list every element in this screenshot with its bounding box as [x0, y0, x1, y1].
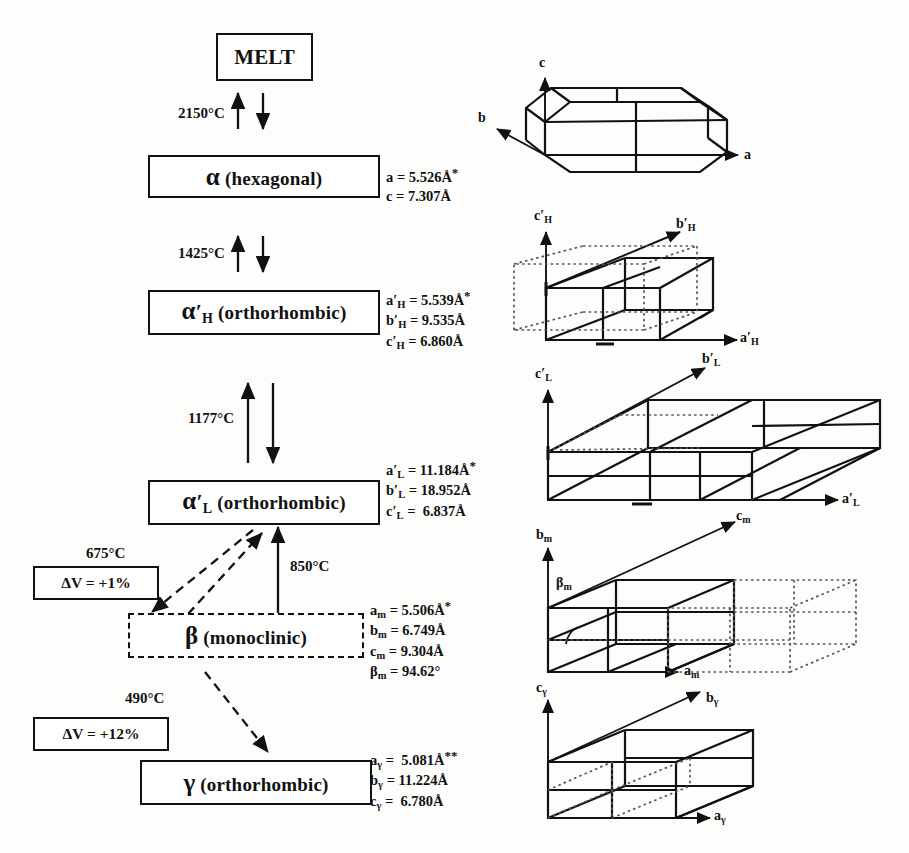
lattice-row: c′H = 6.860Å	[386, 332, 471, 352]
alphaH-suffix: (orthorhombic)	[218, 302, 346, 323]
alpha-suffix: (hexagonal)	[225, 168, 322, 189]
unit-cell-alphaH	[514, 232, 737, 344]
unit-cell-beta	[548, 522, 856, 672]
lattice-row: bγ = 11.224Å	[370, 771, 457, 791]
angle-label-beta-m: βm	[556, 575, 572, 592]
lattice-row: a′H = 5.539Å*	[386, 288, 471, 311]
axis-label-b-alphaL: b′L	[702, 351, 720, 368]
phase-box-alphaH[interactable]: α′H (orthorhombic)	[148, 290, 380, 335]
gamma-suffix: (orthorhombic)	[200, 774, 328, 795]
arrow-alphaH-alphaL	[248, 383, 273, 463]
axis-label-a-gamma: aγ	[714, 808, 726, 825]
lattice-params-alpha: a = 5.526Å* c = 7.307Å	[386, 165, 458, 205]
phase-box-alphaL[interactable]: α′L (orthorhombic)	[148, 480, 380, 525]
lattice-params-alphaL: a′L = 11.184Å* b′L = 18.952Å c′L = 6.837…	[386, 458, 476, 522]
axis-label-c-alphaL: c′L	[535, 366, 552, 383]
arrow-alphaL-beta	[152, 530, 262, 614]
alphaL-glyph: α	[182, 487, 196, 514]
lattice-params-beta: am = 5.506Å* bm = 6.749Å cm = 9.304Å βm …	[370, 598, 451, 683]
arrow-alpha-alphaH	[238, 236, 263, 272]
axis-label-b-alpha: b	[478, 110, 486, 126]
axis-label-a-alphaH: a′H	[740, 330, 759, 347]
phase-box-melt[interactable]: MELT	[216, 33, 313, 81]
arrow-beta-gamma	[205, 672, 268, 752]
axis-label-c-gamma: cγ	[536, 680, 547, 697]
axis-label-c-alphaH: c′H	[534, 208, 552, 225]
phase-diagram-page: MELT α (hexagonal) α′H (orthorhombic) α′…	[0, 0, 909, 853]
beta-glyph: β	[185, 622, 198, 649]
volume-change-box-beta[interactable]: ΔV = +1%	[33, 566, 159, 600]
lattice-row: b′L = 18.952Å	[386, 481, 476, 501]
arrow-melt-alpha	[238, 93, 263, 129]
alphaL-subscript: L	[203, 501, 213, 516]
phase-label-alpha: α (hexagonal)	[206, 164, 322, 190]
phase-label-beta: β (monoclinic)	[185, 623, 307, 649]
axis-label-b-beta: bm	[536, 527, 552, 544]
unit-cell-gamma	[548, 692, 753, 818]
unit-cell-alpha	[497, 78, 738, 172]
axis-label-a-alphaL: a′L	[842, 491, 860, 508]
alphaH-glyph: α	[182, 297, 196, 324]
phase-box-beta[interactable]: β (monoclinic)	[128, 613, 364, 658]
axis-label-c-beta: cm	[736, 508, 751, 525]
temperature-alphaL-beta: 675°C	[86, 545, 125, 562]
alphaH-subscript: H	[202, 311, 213, 326]
lattice-params-gamma: aγ = 5.081Å** bγ = 11.224Å cγ = 6.780Å	[370, 748, 457, 812]
lattice-row: a = 5.526Å*	[386, 165, 458, 187]
lattice-row: βm = 94.62°	[370, 662, 451, 682]
beta-suffix: (monoclinic)	[203, 627, 307, 648]
phase-label-gamma: γ (orthorhombic)	[183, 770, 328, 796]
alphaL-suffix: (orthorhombic)	[217, 492, 345, 513]
temperature-beta-alphaL: 850°C	[290, 558, 329, 575]
lattice-row: bm = 6.749Å	[370, 621, 451, 641]
gamma-glyph: γ	[183, 769, 195, 796]
lattice-params-alphaH: a′H = 5.539Å* b′H = 9.535Å c′H = 6.860Å	[386, 288, 471, 352]
axis-label-b-alphaH: b′H	[676, 216, 696, 233]
phase-box-alpha[interactable]: α (hexagonal)	[148, 155, 380, 198]
lattice-row: am = 5.506Å*	[370, 598, 451, 621]
lattice-row: a′L = 11.184Å*	[386, 458, 476, 481]
volume-change-box-gamma[interactable]: ΔV = +12%	[33, 717, 169, 751]
lattice-row: aγ = 5.081Å**	[370, 748, 457, 771]
alpha-glyph: α	[206, 163, 220, 190]
phase-label-alphaH: α′H (orthorhombic)	[182, 298, 347, 327]
phase-label-melt: MELT	[234, 45, 295, 70]
axis-label-b-gamma: bγ	[706, 690, 718, 707]
phase-label-alphaL: α′L (orthorhombic)	[182, 488, 345, 517]
temperature-melt-alpha: 2150°C	[178, 105, 225, 122]
axis-label-a-beta: am	[684, 663, 699, 680]
axis-label-c-alpha: c	[539, 55, 545, 71]
temperature-alpha-alphaH: 1425°C	[178, 245, 225, 262]
lattice-row: c′L = 6.837Å	[386, 502, 476, 522]
unit-cell-alphaL	[548, 368, 880, 504]
temperature-alphaH-alphaL: 1177°C	[188, 410, 234, 427]
lattice-row: b′H = 9.535Å	[386, 311, 471, 331]
lattice-row: c = 7.307Å	[386, 187, 458, 206]
volume-change-label-beta: ΔV = +1%	[61, 574, 130, 592]
lattice-row: cγ = 6.780Å	[370, 792, 457, 812]
volume-change-label-gamma: ΔV = +12%	[62, 725, 139, 743]
temperature-beta-gamma: 490°C	[125, 690, 164, 707]
axis-label-a-alpha: a	[744, 147, 751, 163]
phase-box-gamma[interactable]: γ (orthorhombic)	[140, 760, 372, 805]
lattice-row: cm = 9.304Å	[370, 642, 451, 662]
